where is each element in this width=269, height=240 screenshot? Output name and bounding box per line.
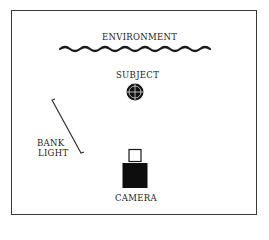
camera-icon [123,150,148,189]
subject-icon [127,84,144,101]
bank-light-label-line1: BANK [37,138,64,148]
bank-light-label-line2: LIGHT [38,148,68,158]
subject-label: SUBJECT [116,70,159,80]
environment-label: ENVIRONMENT [102,32,177,42]
camera-label: CAMERA [115,193,157,203]
environment-wave [60,47,210,51]
